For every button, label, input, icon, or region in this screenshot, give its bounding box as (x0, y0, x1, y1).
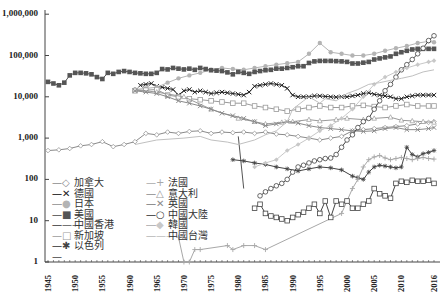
x-tick-label: 1955 (97, 275, 107, 292)
y-tick-label: 100,000 (0, 50, 38, 60)
x-tick-label: 1945 (43, 275, 53, 292)
y-tick-label: 1,000 (0, 132, 38, 142)
legend-swatch-icon: —■— (52, 210, 72, 220)
x-tick-label: 1985 (260, 275, 270, 292)
legend-swatch-icon: —✱— (52, 241, 72, 251)
legend-swatch-icon: —✕— (146, 199, 166, 209)
legend-item: —✕—英國 (146, 199, 208, 210)
x-tick-label: 2016 (429, 275, 439, 292)
x-tick-label: 1975 (206, 275, 216, 292)
series-line (252, 58, 436, 169)
x-tick-label: 1980 (233, 275, 243, 292)
y-tick-label: 10 (0, 215, 38, 225)
x-tick-label: 2005 (369, 275, 379, 292)
x-tick-label: 2010 (396, 275, 406, 292)
x-tick-label: 1965 (152, 275, 162, 292)
legend-column-2: —+—法國 —△—意大利 —✕—英國 —○—中國大陸 —◆—韓國 ———中國台灣 (146, 178, 208, 241)
legend-swatch-icon: —+— (146, 178, 166, 188)
y-tick-label: 1 (0, 256, 38, 266)
legend-swatch-icon: ——— (52, 220, 72, 230)
legend-item: ———中國台灣 (146, 231, 208, 242)
legend-item: ———中國香港 (52, 220, 114, 231)
x-tick-label: 1950 (70, 275, 80, 292)
legend-item: —◇—加拿大 (52, 178, 114, 189)
legend-swatch-icon: —□— (52, 231, 72, 241)
x-tick-label: 1970 (179, 275, 189, 292)
y-tick-label: 100 (0, 173, 38, 183)
legend-item: —◆—韓國 (146, 220, 208, 231)
legend-column-1: —◇—加拿大 —✕—德國 —●—日本 —■—美國 ———中國香港 —□—新加坡 … (52, 178, 114, 252)
series-line (231, 145, 437, 182)
legend-swatch-icon: —◇— (52, 178, 72, 188)
series-line (46, 119, 437, 152)
x-tick-label: 1990 (288, 275, 298, 292)
y-tick-label: 10,000 (0, 91, 38, 101)
x-tick-label: 2000 (342, 275, 352, 292)
legend-item: —+—法國 (146, 178, 208, 189)
legend-swatch-icon: ——— (146, 231, 166, 241)
legend-item: —✱—以色列 (52, 241, 114, 252)
legend-swatch-icon: —○— (146, 210, 166, 220)
legend-swatch-icon: —✕— (52, 189, 72, 199)
legend-swatch-icon: —△— (146, 189, 166, 199)
x-tick-label: 1960 (125, 275, 135, 292)
legend-swatch-icon: —●— (52, 199, 72, 209)
y-tick-label: 1,000,000 (0, 8, 38, 18)
x-tick-label: 1995 (315, 275, 325, 292)
legend-swatch-icon: —◆— (146, 220, 166, 230)
legend-item: —●—日本 (52, 199, 114, 210)
